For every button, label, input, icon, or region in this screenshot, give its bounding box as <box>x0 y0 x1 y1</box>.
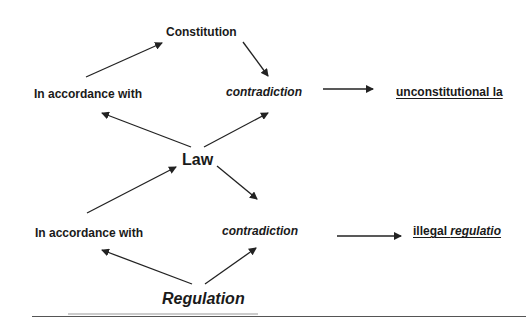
node-in-accordance-top: In accordance with <box>34 88 142 100</box>
arrow-law-to-contradiction-top <box>204 113 268 147</box>
bottom-rule-shadow <box>68 313 258 315</box>
arrow-constitution-to-contradiction <box>243 42 268 76</box>
node-illegal-regulation: illegal regulatio <box>413 225 501 237</box>
arrow-law-to-contradiction-bottom <box>217 166 257 199</box>
arrow-accordance-bottom-to-law <box>87 167 176 213</box>
node-in-accordance-bottom: In accordance with <box>35 227 143 239</box>
node-contradiction-bottom: contradiction <box>222 225 298 237</box>
arrow-regulation-to-accordance-bottom <box>102 250 192 284</box>
bottom-rule <box>32 316 526 317</box>
node-law: Law <box>182 152 213 168</box>
arrow-layer <box>0 0 526 334</box>
node-contradiction-top: contradiction <box>226 86 302 98</box>
arrow-accordance-to-constitution <box>86 43 162 77</box>
node-constitution: Constitution <box>166 26 237 38</box>
illegal-text: illegal <box>413 224 450 238</box>
regulation-text: regulatio <box>450 224 501 238</box>
node-unconstitutional-law: unconstitutional la <box>396 86 503 98</box>
arrow-law-to-accordance-top <box>102 113 191 147</box>
arrow-regulation-to-contradiction-bottom <box>205 248 256 284</box>
node-regulation: Regulation <box>162 291 245 307</box>
